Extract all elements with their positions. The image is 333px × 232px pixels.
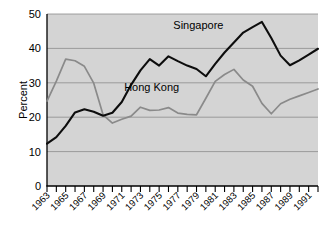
y-axis-tick-label: 30 (29, 77, 41, 89)
chart-canvas: 01020304050 1963196519671969197119731975… (0, 0, 333, 232)
y-axis-title: Percent (17, 81, 29, 119)
plot-area-background (47, 14, 318, 186)
y-axis-tick-label: 0 (35, 180, 41, 192)
y-axis-tick-label: 50 (29, 8, 41, 20)
y-axis-tick-label: 10 (29, 146, 41, 158)
series-label-singapore: Singapore (173, 19, 223, 31)
y-axis-tick-label: 20 (29, 111, 41, 123)
series-label-hong-kong: Hong Kong (124, 81, 179, 93)
line-chart: 01020304050 1963196519671969197119731975… (0, 0, 333, 232)
y-axis-tick-label: 40 (29, 42, 41, 54)
